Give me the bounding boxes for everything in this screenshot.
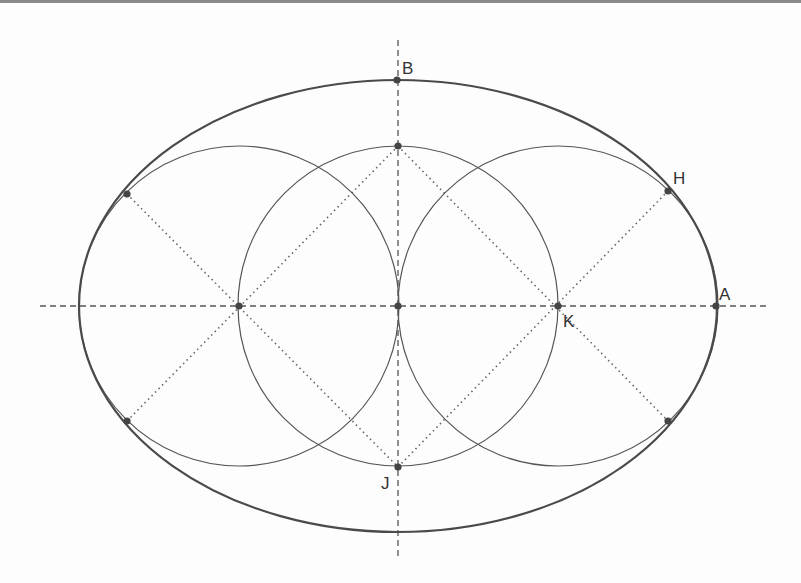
point-k[interactable]	[554, 302, 561, 309]
point-lower-left[interactable]	[123, 417, 130, 424]
point-center[interactable]	[394, 302, 401, 309]
label-k: K	[563, 312, 575, 331]
label-b: B	[402, 59, 413, 78]
points	[123, 76, 719, 470]
point-h[interactable]	[664, 187, 671, 194]
label-a: A	[719, 285, 731, 304]
point-upper-left[interactable]	[123, 190, 130, 197]
label-h: H	[673, 169, 685, 188]
point-top-small[interactable]	[394, 142, 401, 149]
label-j: J	[381, 474, 390, 493]
point-lower-right[interactable]	[664, 417, 671, 424]
point-j[interactable]	[394, 463, 401, 470]
geometry-canvas: B H A K J	[0, 0, 801, 583]
point-b[interactable]	[393, 76, 400, 83]
point-left-center[interactable]	[235, 302, 242, 309]
